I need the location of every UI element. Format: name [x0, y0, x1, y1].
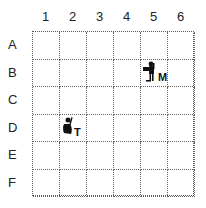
cell-d5 [141, 115, 168, 143]
cell-b4 [114, 60, 141, 88]
cell-c6 [168, 87, 195, 115]
col-label-4: 4 [113, 9, 140, 24]
cell-f1 [33, 170, 60, 198]
col-label-3: 3 [86, 9, 113, 24]
row-label-c: C [8, 86, 17, 113]
cell-a6 [168, 32, 195, 60]
cell-a2 [60, 32, 87, 60]
cell-f6 [168, 170, 195, 198]
cell-b1 [33, 60, 60, 88]
cell-e3 [87, 142, 114, 170]
cell-c4 [114, 87, 141, 115]
cell-c5 [141, 87, 168, 115]
cell-c2 [60, 87, 87, 115]
col-label-5: 5 [140, 9, 167, 24]
cell-d3 [87, 115, 114, 143]
col-label-1: 1 [32, 9, 59, 24]
cell-c3 [87, 87, 114, 115]
col-label-6: 6 [167, 9, 194, 24]
explorer-with-mule-icon: M [140, 59, 170, 86]
cell-b2 [60, 60, 87, 88]
cell-d1 [33, 115, 60, 143]
cell-a3 [87, 32, 114, 60]
cell-b3 [87, 60, 114, 88]
cell-e5 [141, 142, 168, 170]
cell-e2 [60, 142, 87, 170]
cell-d4 [114, 115, 141, 143]
cell-c1 [33, 87, 60, 115]
cell-f4 [114, 170, 141, 198]
svg-text:M: M [158, 71, 167, 83]
cell-a1 [33, 32, 60, 60]
knight-with-treasure-icon: T [59, 114, 87, 141]
cell-d6 [168, 115, 195, 143]
row-label-e: E [8, 141, 17, 168]
cell-a4 [114, 32, 141, 60]
svg-text:T: T [74, 126, 81, 138]
cell-b6 [168, 60, 195, 88]
cell-e6 [168, 142, 195, 170]
coordinate-grid [32, 31, 194, 196]
row-label-b: B [8, 59, 17, 86]
cell-e1 [33, 142, 60, 170]
row-label-d: D [8, 114, 17, 141]
cell-f2 [60, 170, 87, 198]
row-label-a: A [8, 31, 17, 58]
cell-a5 [141, 32, 168, 60]
col-label-2: 2 [59, 9, 86, 24]
cell-e4 [114, 142, 141, 170]
cell-f5 [141, 170, 168, 198]
cell-f3 [87, 170, 114, 198]
row-label-f: F [8, 169, 16, 196]
